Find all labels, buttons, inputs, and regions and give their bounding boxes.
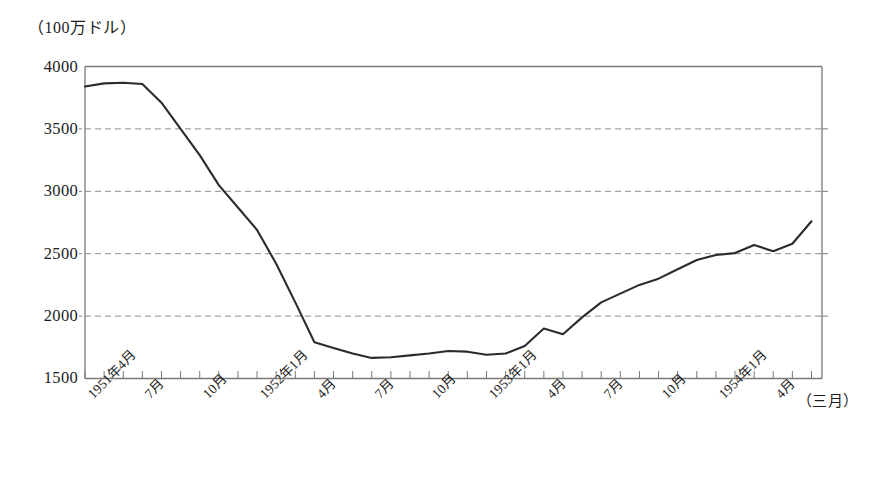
gridlines (79, 129, 828, 316)
plot-frame (85, 67, 822, 379)
chart-figure: （100万ドル） 1500 2000 2500 3000 3500 4000 1… (0, 0, 873, 491)
x-axis-unit-label: （三月） (797, 389, 858, 410)
data-series-line (85, 83, 811, 358)
plot-area (0, 0, 873, 491)
